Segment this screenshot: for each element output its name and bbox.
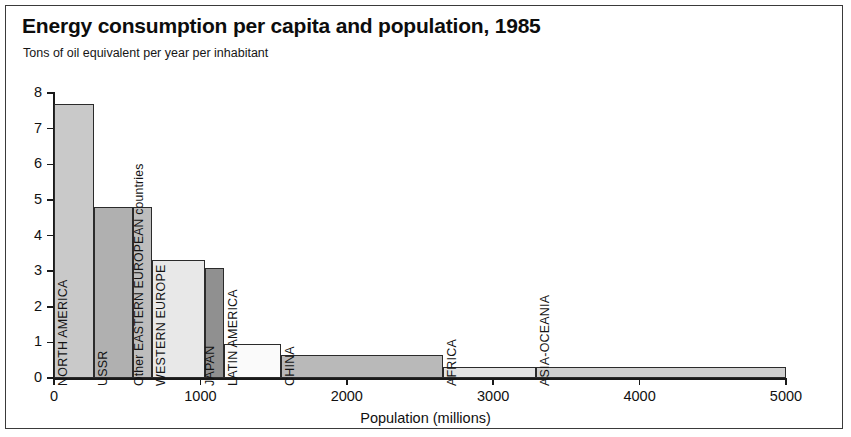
x-axis-tick	[639, 378, 641, 385]
y-axis-tick	[47, 128, 54, 130]
y-axis-tick-label: 1	[0, 333, 42, 349]
y-axis-tick-label: 2	[0, 298, 42, 314]
y-axis-tick	[47, 342, 54, 344]
y-axis-tick	[47, 164, 54, 166]
x-axis-tick	[200, 378, 202, 385]
y-axis-tick-label: 4	[0, 227, 42, 243]
x-axis-tick	[53, 378, 55, 385]
chart-subtitle: Tons of oil equivalent per year per inha…	[23, 46, 268, 60]
y-axis-tick	[47, 235, 54, 237]
bar-label: Other EASTERN EUROPEAN countries	[132, 164, 146, 386]
bar-label: USSR	[96, 350, 110, 386]
y-axis-tick-label: 3	[0, 262, 42, 278]
y-axis-tick-label: 0	[0, 369, 42, 385]
x-axis-tick	[785, 378, 787, 385]
x-axis-tick-label: 5000	[770, 388, 802, 404]
x-axis-tick	[346, 378, 348, 385]
y-axis-tick	[47, 199, 54, 201]
x-axis-tick-label: 3000	[477, 388, 509, 404]
page-title: Energy consumption per capita and popula…	[22, 14, 541, 38]
x-axis-tick-label: 2000	[331, 388, 363, 404]
y-axis-tick-label: 8	[0, 84, 42, 100]
bar-label: ASIA-OCEANIA	[538, 295, 552, 386]
bar-label: AFRICA	[445, 339, 459, 386]
x-axis-tick-label: 4000	[623, 388, 655, 404]
x-axis-tick	[492, 378, 494, 385]
y-axis-tick-label: 5	[0, 191, 42, 207]
y-axis-tick-label: 6	[0, 155, 42, 171]
chart-screenshot: Energy consumption per capita and popula…	[0, 0, 851, 437]
bar-china	[281, 355, 444, 378]
bar-label: CHINA	[283, 346, 297, 386]
x-axis-tick-label: 0	[50, 388, 58, 404]
x-axis-tick-label: 1000	[184, 388, 216, 404]
bar-label: WESTERN EUROPE	[154, 264, 168, 386]
x-axis-title: Population (millions)	[0, 410, 851, 426]
bar-label: LATIN AMERICA	[226, 289, 240, 386]
plot-area: NORTH AMERICAUSSROther EASTERN EUROPEAN …	[54, 93, 786, 378]
bar-label: JAPAN	[203, 346, 217, 386]
bar-label: NORTH AMERICA	[56, 279, 70, 386]
y-axis-tick	[47, 92, 54, 94]
y-axis-tick	[47, 306, 54, 308]
bar-asia-oceania	[536, 367, 786, 378]
y-axis-tick	[47, 270, 54, 272]
y-axis-tick-label: 7	[0, 120, 42, 136]
